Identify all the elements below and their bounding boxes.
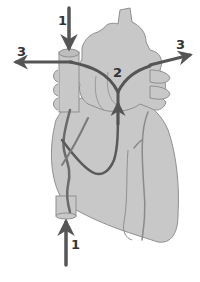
label-1-top: 1 <box>58 14 67 27</box>
label-3-left: 3 <box>17 45 26 58</box>
label-1-bottom: 1 <box>71 238 80 251</box>
label-3-right: 3 <box>176 38 185 51</box>
label-2: 2 <box>113 66 122 79</box>
heart-diagram <box>0 0 200 282</box>
